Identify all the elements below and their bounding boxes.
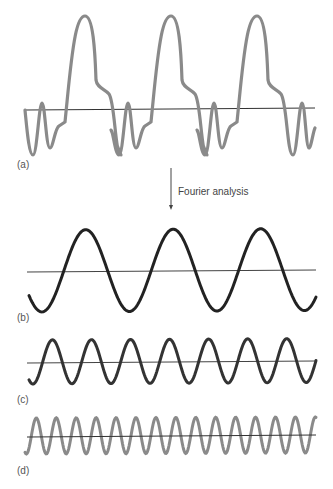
panel-a-waveform bbox=[25, 16, 315, 155]
panel-a-label: (a) bbox=[17, 159, 29, 170]
panel-d-label: (d) bbox=[17, 465, 29, 476]
panel-b-axis bbox=[27, 270, 316, 272]
panel-c-waveform bbox=[27, 339, 316, 384]
panel-c-axis bbox=[27, 361, 316, 363]
panel-a-axis bbox=[25, 108, 315, 110]
panel-c-label: (c) bbox=[17, 394, 29, 405]
fourier-diagram bbox=[0, 0, 333, 489]
panel-d-waveform bbox=[25, 417, 316, 454]
panel-b-waveform bbox=[27, 229, 316, 312]
arrow-caption: Fourier analysis bbox=[178, 186, 249, 197]
complex-wave bbox=[25, 16, 315, 155]
fourier-arrow bbox=[169, 168, 173, 210]
panel-b-label: (b) bbox=[17, 312, 29, 323]
